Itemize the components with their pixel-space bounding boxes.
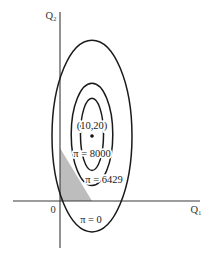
q2-axis-label: Q₂: [45, 10, 57, 21]
contour-label-0: π = 0: [80, 214, 102, 225]
optimum-label: (10,20): [77, 120, 108, 132]
origin-label: 0: [50, 204, 55, 215]
q1-axis-label: Q₁: [190, 204, 201, 215]
contour-label-6429: π = 6429: [85, 174, 122, 185]
optimum-point: [90, 134, 94, 138]
contour-label-8000: π = 8000: [73, 148, 110, 159]
profit-contour-chart: (10,20) π = 8000 π = 6429 π = 0 0 Q₁ Q₂: [0, 0, 211, 261]
